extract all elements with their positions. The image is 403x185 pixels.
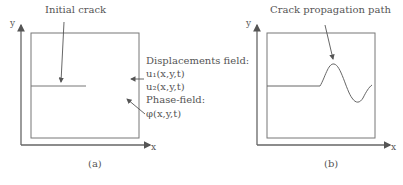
initial-crack-label: Initial crack [45, 4, 106, 15]
caption-a: (a) [88, 158, 102, 169]
y-axis-label-b: y [246, 18, 251, 28]
panel-a [21, 22, 150, 145]
crack-arrow [61, 22, 64, 82]
y-axis-label-a: y [10, 18, 15, 28]
phi-label: φ(x,y,t) [146, 108, 181, 119]
phase-field-label: Phase-field: [146, 94, 205, 105]
phase-arrow [127, 99, 145, 114]
x-axis-label-a: x [151, 142, 156, 152]
x-axis-label-b: x [391, 142, 396, 152]
path-arrow [325, 25, 333, 59]
u1-label: u₁(x,y,t) [146, 68, 185, 79]
diagram-canvas [0, 0, 403, 185]
crack-propagation-label: Crack propagation path [270, 4, 391, 15]
displacements-field-label: Displacements field: [146, 55, 249, 66]
u2-label: u₂(x,y,t) [146, 81, 185, 92]
caption-b: (b) [324, 158, 338, 169]
panel-b [257, 25, 390, 145]
crack-propagation-curve [267, 64, 372, 102]
